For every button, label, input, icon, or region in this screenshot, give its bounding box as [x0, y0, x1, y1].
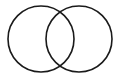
venn-diagram	[0, 0, 119, 79]
left-set-circle	[8, 6, 74, 72]
right-set-circle	[46, 6, 112, 72]
